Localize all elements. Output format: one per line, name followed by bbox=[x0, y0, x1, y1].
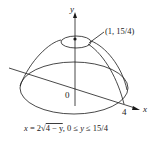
x-axis-label: x bbox=[142, 104, 147, 114]
x-tick-label: 4 bbox=[122, 107, 127, 117]
point-leader bbox=[89, 32, 104, 43]
origin-label: 0 bbox=[65, 90, 70, 100]
right-silhouette bbox=[91, 41, 127, 90]
x-axis-arrow-icon bbox=[132, 106, 140, 110]
point-label: (1, 15/4) bbox=[105, 26, 134, 36]
point-marker bbox=[73, 37, 76, 40]
y-axis-label: y bbox=[69, 4, 74, 14]
caption: x = 2√4 − y, 0 ≤ y ≤ 15/4 bbox=[23, 123, 109, 133]
paraboloid-diagram: y x 0 4 (1, 15/4) x = 2√4 − y, 0 ≤ y ≤ 1… bbox=[0, 0, 153, 142]
caption-rest: , 0 ≤ bbox=[63, 123, 80, 133]
caption-tail: ≤ 15/4 bbox=[84, 123, 109, 133]
base-ellipse bbox=[20, 62, 128, 114]
caption-eq: = 2 bbox=[28, 123, 41, 133]
left-silhouette bbox=[20, 40, 61, 86]
caption-radicand: 4 − y bbox=[46, 123, 64, 133]
